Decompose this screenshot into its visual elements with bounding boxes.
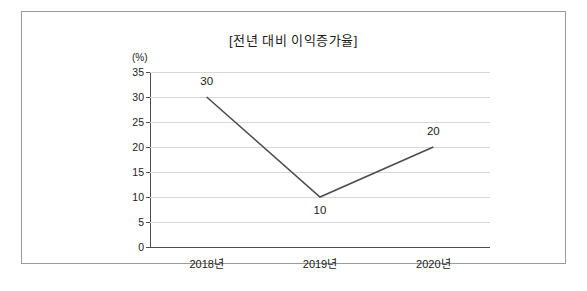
y-tick-label: 35	[132, 66, 144, 78]
x-tick-label: 2020년	[416, 255, 450, 271]
x-tick-label: 2019년	[303, 255, 337, 271]
y-tick-label: 20	[132, 141, 144, 153]
y-axis-unit-label: (%)	[132, 52, 148, 63]
y-tick-label: 10	[132, 191, 144, 203]
plot-area: (%) 05101520253035 2018년2019년2020년 30102…	[150, 72, 490, 248]
y-tick-label: 15	[132, 166, 144, 178]
y-tick-label: 30	[132, 91, 144, 103]
line-series	[150, 72, 490, 248]
chart-title: [전년 대비 이익증가율]	[22, 30, 565, 49]
y-tick-label: 25	[132, 116, 144, 128]
y-tick-label: 0	[138, 241, 144, 253]
chart-frame: [전년 대비 이익증가율] (%) 05101520253035 2018년20…	[21, 11, 566, 264]
y-tick-label: 5	[138, 216, 144, 228]
data-point-label: 30	[200, 75, 213, 87]
data-point-label: 10	[314, 204, 327, 216]
x-tick-label: 2018년	[189, 255, 223, 271]
data-point-label: 20	[427, 125, 440, 137]
